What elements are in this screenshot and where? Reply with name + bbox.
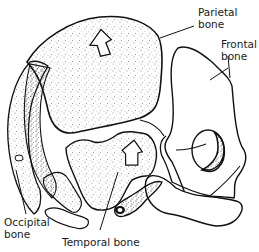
- label-parietal-line2: bone: [198, 18, 237, 30]
- label-occipital-line2: bone: [4, 228, 50, 240]
- label-temporal-bone: Temporal bone: [62, 236, 140, 248]
- label-frontal-line2: bone: [221, 50, 257, 62]
- parietal-bone: [27, 16, 162, 133]
- label-parietal-line1: Parietal: [198, 6, 237, 18]
- skull-diagram: Parietal bone Frontal bone Occipital bon…: [0, 0, 259, 252]
- label-frontal-line1: Frontal: [221, 38, 257, 50]
- frontal-bone: [165, 47, 246, 198]
- label-occipital-line1: Occipital: [4, 216, 50, 228]
- label-temporal-line1: Temporal bone: [62, 236, 140, 248]
- label-frontal-bone: Frontal bone: [221, 38, 257, 62]
- label-occipital-bone: Occipital bone: [4, 216, 50, 240]
- temporal-bone: [43, 132, 162, 229]
- label-parietal-bone: Parietal bone: [198, 6, 237, 30]
